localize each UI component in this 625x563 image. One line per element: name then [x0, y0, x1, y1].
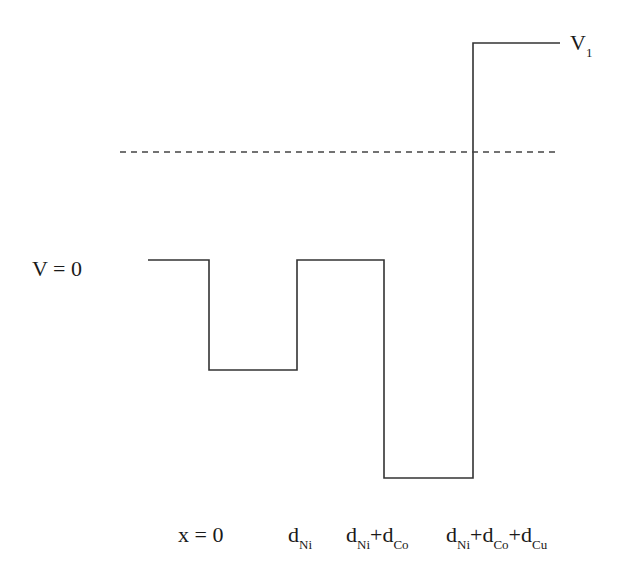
label-part-sub: Co	[393, 537, 408, 552]
potential-profile-line	[148, 43, 560, 478]
potential-diagram	[0, 0, 625, 563]
label-part-sub: Co	[493, 537, 508, 552]
label-part: +d	[470, 522, 493, 547]
label-dni-main: d	[288, 522, 299, 547]
label-v0: V = 0	[32, 258, 82, 280]
label-part-sub: Cu	[532, 537, 547, 552]
label-v1: V1	[570, 32, 592, 54]
label-dni-dco: dNi+dCo	[346, 524, 409, 546]
label-part: d	[446, 522, 457, 547]
label-x0: x = 0	[178, 524, 223, 546]
label-part: +d	[370, 522, 393, 547]
label-dni-sub: Ni	[299, 537, 312, 552]
label-dni: dNi	[288, 524, 312, 546]
label-v1-main: V	[570, 30, 586, 55]
label-part: d	[346, 522, 357, 547]
label-part-sub: Ni	[357, 537, 370, 552]
label-v1-sub: 1	[586, 45, 593, 60]
label-part: +d	[509, 522, 532, 547]
label-dni-dco-dcu: dNi+dCo+dCu	[446, 524, 547, 546]
label-part-sub: Ni	[457, 537, 470, 552]
